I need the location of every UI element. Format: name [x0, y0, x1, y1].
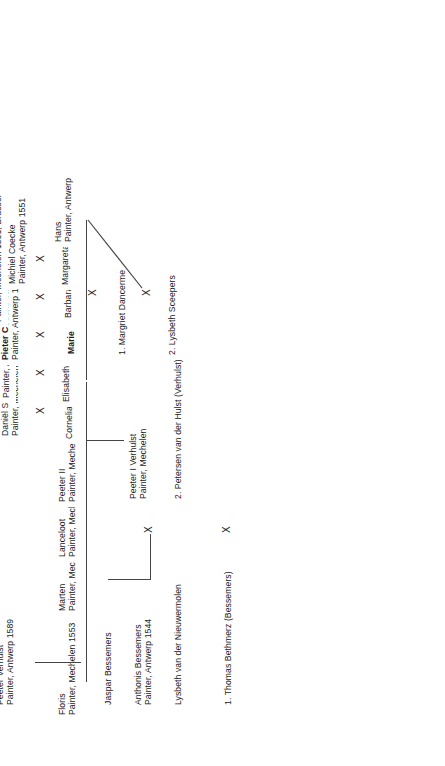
sibling-bus-right: [86, 220, 87, 380]
node-hans[interactable]: Hans Painter, Antwerp: [48, 121, 78, 247]
marriage-x-margareta: X: [36, 255, 46, 262]
node-peeter-verhulst[interactable]: Peeter Verhulst Painter, Antwerp 1589: [0, 584, 20, 710]
sibling-bus-left: [86, 382, 87, 682]
node-name: Michiel Coecke: [7, 160, 17, 284]
node-name: Floris: [57, 599, 67, 715]
marriage-x-cornelia: X: [36, 407, 46, 414]
node-spouse-michiel-coecke[interactable]: Michiel Coecke Painter, Antwerp 1551: [2, 155, 32, 289]
node-detail: Painter, Antwerp 1551: [17, 160, 27, 284]
node-detail: Painter, Antwerp: [63, 126, 73, 242]
connector-floris-to-peeter-verhulst: [35, 662, 81, 663]
family-tree-canvas: Jaspar Bessemers Anthonis Bessemers Pain…: [0, 0, 445, 766]
node-detail: Painter, Mechelen 1553: [67, 599, 77, 715]
node-detail: Painter, Antwerp 1589: [5, 589, 15, 705]
marriage-x-marie: X: [36, 331, 46, 338]
node-name: Hans: [53, 126, 63, 242]
marriage-x-elisabeth: X: [36, 369, 46, 376]
marriage-x-barbara: X: [36, 293, 46, 300]
